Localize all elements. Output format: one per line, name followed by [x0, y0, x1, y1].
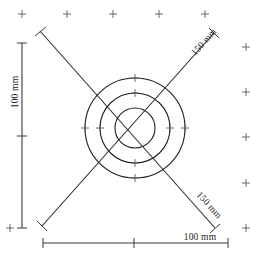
mark-top-2 — [63, 10, 71, 18]
tick-outer-left — [81, 124, 89, 132]
mark-right-3 — [242, 133, 250, 141]
vertical-dimension-label: 100 mm — [10, 75, 20, 108]
drawing-sheet: 100 mm 100 mm 150 mm 150 mm — [0, 0, 256, 260]
diagonal-dimension-group — [35, 27, 220, 233]
diagonal-nwse-start-tick — [35, 27, 46, 36]
mark-top-3 — [109, 10, 117, 18]
diagonal-upper-right-dimension-label: 150 mm — [189, 26, 219, 57]
technical-drawing-canvas: 100 mm 100 mm 150 mm 150 mm — [0, 0, 256, 260]
vertical-dimension-group — [17, 43, 27, 228]
horizontal-dimension-label: 100 mm — [184, 232, 217, 242]
circle-tick-group — [81, 74, 189, 182]
mark-right-4 — [242, 179, 250, 187]
tick-middle-right — [166, 124, 174, 132]
tick-outer-bottom — [131, 174, 139, 182]
inner-circle — [115, 108, 155, 148]
mark-top-5 — [201, 10, 209, 18]
registration-mark-grid — [6, 10, 250, 232]
middle-circle — [100, 93, 170, 163]
tick-middle-bottom — [131, 159, 139, 167]
mark-top-4 — [155, 10, 163, 18]
mark-right-5 — [242, 224, 250, 232]
tick-outer-right — [181, 124, 189, 132]
tick-outer-top — [131, 74, 139, 82]
mark-top-1 — [18, 10, 26, 18]
mark-right-1 — [242, 43, 250, 51]
diagonal-lower-right-dimension-label: 150 mm — [195, 190, 225, 221]
tick-middle-left — [96, 124, 104, 132]
mark-left-bottom — [6, 224, 14, 232]
mark-right-2 — [242, 88, 250, 96]
tick-middle-top — [131, 89, 139, 97]
